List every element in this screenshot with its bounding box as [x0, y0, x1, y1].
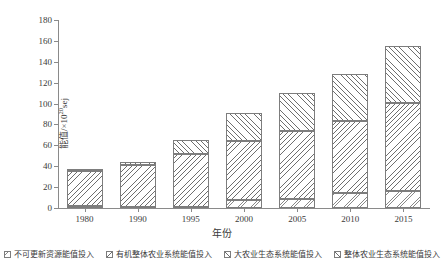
x-tick	[138, 208, 139, 212]
bar-2015	[385, 46, 421, 208]
bar-1990	[120, 162, 156, 208]
bar-segment	[67, 169, 103, 171]
legend-item: 大农业生态系统能值投入	[224, 250, 322, 259]
legend-label: 整体农业生态系统能值投入	[344, 250, 440, 259]
bar-segment	[385, 46, 421, 102]
x-tick	[244, 208, 245, 212]
legend-label: 不可更新资源能值投入	[14, 250, 94, 259]
bar-segment	[173, 154, 209, 207]
legend-swatch	[334, 251, 341, 258]
bar-segment	[120, 165, 156, 207]
x-tick-label: 1990	[129, 214, 147, 224]
bar-1980	[67, 170, 103, 208]
y-tick	[54, 20, 58, 21]
plot-area: 020406080100120140160180 198019901995200…	[58, 20, 430, 208]
y-tick-label: 120	[39, 78, 53, 87]
bar-segment	[67, 171, 103, 206]
legend-swatch	[4, 251, 11, 258]
y-tick	[54, 83, 58, 84]
y-tick	[54, 41, 58, 42]
bar-segment	[226, 200, 262, 208]
legend-item: 整体农业生态系统能值投入	[334, 250, 440, 259]
bar-segment	[385, 191, 421, 208]
bar-segment	[332, 121, 368, 193]
bar-segment	[332, 74, 368, 121]
y-tick-label: 20	[43, 183, 52, 192]
x-tick-label: 2015	[394, 214, 412, 224]
legend-item: 有机整体农业系统能值投入	[106, 250, 212, 259]
bar-1995	[173, 140, 209, 208]
x-axis-title: 年份	[0, 228, 444, 239]
bar-2010	[332, 74, 368, 208]
bar-segment	[332, 193, 368, 208]
bar-segment	[120, 162, 156, 165]
y-tick-label: 60	[43, 141, 52, 150]
bar-segment	[226, 141, 262, 200]
bar-segment	[279, 199, 315, 208]
legend-label: 有机整体农业系统能值投入	[116, 250, 212, 259]
y-tick-label: 100	[39, 99, 53, 108]
legend-swatch	[224, 251, 231, 258]
y-tick-label: 160	[39, 36, 53, 45]
x-tick	[191, 208, 192, 212]
y-tick-label: 140	[39, 57, 53, 66]
y-tick-label: 0	[48, 204, 53, 213]
y-tick	[54, 187, 58, 188]
legend-label: 大农业生态系统能值投入	[234, 250, 322, 259]
y-axis-title-base: 能值/×10	[59, 115, 69, 150]
x-tick-label: 2010	[341, 214, 359, 224]
y-axis-title-exponent: 20	[57, 108, 64, 115]
y-tick-label: 80	[43, 120, 52, 129]
bar-2000	[226, 113, 262, 208]
x-tick-label: 2000	[235, 214, 253, 224]
y-tick-label: 180	[39, 16, 53, 25]
bar-segment	[385, 103, 421, 192]
bar-segment	[226, 113, 262, 141]
y-tick	[54, 208, 58, 209]
y-tick	[54, 62, 58, 63]
x-tick	[350, 208, 351, 212]
bar-segment	[173, 140, 209, 154]
x-tick	[297, 208, 298, 212]
bar-segment	[279, 93, 315, 131]
y-axis-title: 能值/×1020sej	[56, 98, 69, 149]
x-tick-label: 2005	[288, 214, 306, 224]
x-tick-label: 1995	[182, 214, 200, 224]
y-axis-title-unit: sej	[59, 98, 69, 108]
legend-item: 不可更新资源能值投入	[4, 250, 94, 259]
x-tick	[403, 208, 404, 212]
x-tick-label: 1980	[76, 214, 94, 224]
bar-segment	[279, 131, 315, 198]
y-tick-label: 40	[43, 162, 52, 171]
y-tick	[54, 166, 58, 167]
chart-legend: 不可更新资源能值投入有机整体农业系统能值投入大农业生态系统能值投入整体农业生态系…	[0, 250, 444, 259]
legend-swatch	[106, 251, 113, 258]
x-tick	[85, 208, 86, 212]
bar-2005	[279, 93, 315, 208]
